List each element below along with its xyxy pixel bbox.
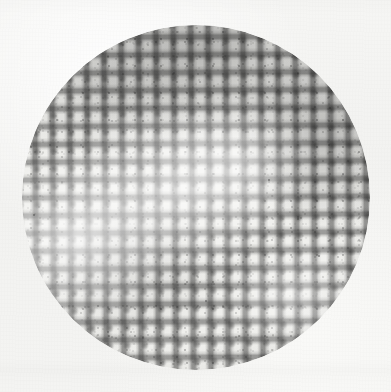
dust-fleck [205,300,207,302]
dust-fleck [120,86,122,88]
disc-rim-feather [22,25,370,370]
figure-caption [0,374,391,392]
dust-fleck [268,179,270,181]
circular-specimen-disc [22,25,370,370]
dust-fleck [33,214,35,216]
dust-fleck [318,255,320,257]
figure-root [0,0,391,392]
